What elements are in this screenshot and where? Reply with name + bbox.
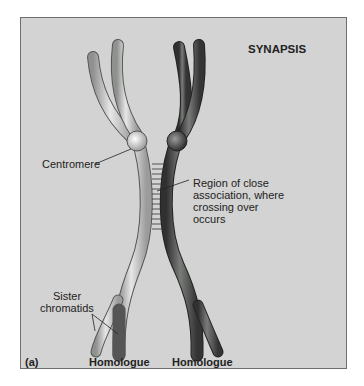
panel-label: (a) <box>25 356 38 368</box>
region-label-line1: Region of close <box>193 177 269 189</box>
figure-title: SYNAPSIS <box>248 43 306 55</box>
region-label-line2: association, where <box>193 189 284 201</box>
chromosome-diagram <box>0 0 364 386</box>
region-label-line4: occurs <box>193 213 225 225</box>
homologue-label-right: Homologue <box>172 356 233 368</box>
homologue-light <box>93 45 147 355</box>
region-label-line3: crossing over <box>193 201 258 213</box>
sister-label-line2: chromatids <box>40 302 94 314</box>
homologue-label-left: Homologue <box>89 356 150 368</box>
sister-label-line1: Sister <box>53 290 81 302</box>
sister-leader-1 <box>92 314 95 331</box>
centromere-dark <box>167 131 187 151</box>
centromere-leader <box>95 149 131 164</box>
centromere-label: Centromere <box>42 158 100 170</box>
centromere-light <box>127 131 147 151</box>
